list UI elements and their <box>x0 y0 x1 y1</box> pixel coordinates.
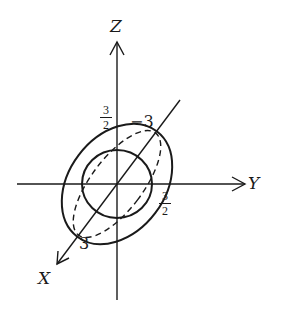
x-axis <box>57 100 180 264</box>
x-positive-intercept-label: 3 <box>79 234 89 253</box>
y-intercept-fraction: 3 2 <box>159 190 171 217</box>
x-negative-intercept-label: −3 <box>130 112 154 131</box>
z-intercept-numerator: 3 <box>103 103 109 117</box>
y-intercept-denominator: 2 <box>162 204 168 218</box>
x-axis-label: X <box>38 268 50 288</box>
ellipsoid-diagram <box>0 0 283 311</box>
z-intercept-fraction: 3 2 <box>100 104 112 131</box>
y-intercept-numerator: 3 <box>162 189 168 203</box>
y-axis-label: Y <box>248 173 259 193</box>
z-intercept-denominator: 2 <box>103 118 109 132</box>
z-axis-label: Z <box>110 16 122 36</box>
